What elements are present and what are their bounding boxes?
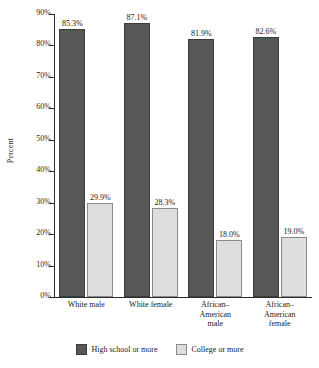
bar: 87.1% (124, 23, 150, 297)
y-axis-tick-label: 20% (36, 228, 51, 237)
bar: 18.0% (216, 240, 242, 297)
bar: 85.3% (59, 29, 85, 297)
y-axis-title: Percent (6, 121, 15, 181)
chart-legend: High school or more College or more (0, 344, 319, 355)
x-axis-category-label-line: female (248, 319, 313, 329)
legend-item-college: College or more (176, 344, 244, 355)
legend-swatch-icon-college (176, 344, 187, 355)
bar: 81.9% (188, 39, 214, 297)
y-axis-tick-label: 80% (36, 39, 51, 48)
bar-value-label: 29.9% (90, 193, 111, 202)
bar: 19.0% (281, 237, 307, 297)
y-axis-tick-label: 30% (36, 197, 51, 206)
bar: 29.9% (87, 203, 113, 297)
x-axis-category-label: White male (54, 300, 119, 310)
x-axis-category-label-line: African– (183, 300, 248, 310)
legend-label-high-school: High school or more (92, 345, 158, 354)
y-axis-tick-label: 40% (36, 165, 51, 174)
x-axis-category-label: White female (119, 300, 184, 310)
bar: 28.3% (152, 208, 178, 297)
legend-swatch-icon-high-school (76, 344, 87, 355)
y-axis-tick-label: 50% (36, 134, 51, 143)
y-axis-tick-label: 10% (36, 260, 51, 269)
y-axis-tick-label: 70% (36, 71, 51, 80)
x-axis-category-label-line: American (248, 310, 313, 320)
legend-item-high-school: High school or more (76, 344, 158, 355)
bar-group: 81.9%18.0% (183, 14, 248, 297)
bar-value-label: 19.0% (283, 227, 304, 236)
bar-chart: Percent 0%10%20%30%40%50%60%70%80%90% 85… (0, 0, 319, 368)
legend-label-college: College or more (192, 345, 244, 354)
x-axis-category-label-line: male (183, 319, 248, 329)
x-axis-category-label: African–Americanfemale (248, 300, 313, 329)
x-axis-category-label-line: White male (54, 300, 119, 310)
y-axis-tick-label: 90% (36, 8, 51, 17)
bar-group: 87.1%28.3% (119, 14, 184, 297)
bar-group: 85.3%29.9% (54, 14, 119, 297)
x-axis-line (54, 297, 312, 298)
plot-area: 0%10%20%30%40%50%60%70%80%90% 85.3%29.9%… (54, 14, 312, 297)
bar-value-label: 82.6% (255, 27, 276, 36)
y-axis-tick-label: 60% (36, 102, 51, 111)
x-axis-category-label: African–Americanmale (183, 300, 248, 329)
bar-value-label: 28.3% (154, 198, 175, 207)
x-axis-category-label-line: White female (119, 300, 184, 310)
bar-group: 82.6%19.0% (248, 14, 313, 297)
bar-value-label: 18.0% (219, 230, 240, 239)
bar: 82.6% (253, 37, 279, 297)
bar-value-label: 81.9% (191, 29, 212, 38)
y-axis-tick-label: 0% (40, 291, 51, 300)
x-axis-category-label-line: American (183, 310, 248, 320)
x-axis-category-label-line: African– (248, 300, 313, 310)
bar-value-label: 87.1% (126, 13, 147, 22)
bar-value-label: 85.3% (62, 19, 83, 28)
